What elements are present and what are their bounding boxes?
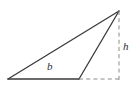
triangle-diagram-svg xyxy=(0,0,137,95)
triangle-figure: b h xyxy=(0,0,137,95)
triangle-right-slant-edge xyxy=(79,11,119,79)
height-label: h xyxy=(123,41,129,52)
triangle-left-slant-edge xyxy=(8,11,119,79)
base-label: b xyxy=(47,61,53,72)
